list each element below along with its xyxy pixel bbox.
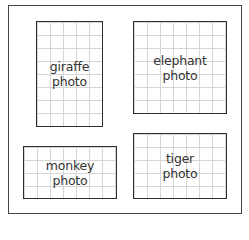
frame-label-line1: elephant	[153, 53, 207, 68]
monkey-photo-frame: monkey photo	[23, 146, 117, 199]
frame-label-line1: monkey	[46, 158, 94, 173]
frame-label-line2: photo	[52, 74, 87, 89]
tiger-photo-frame: tiger photo	[133, 133, 227, 199]
frame-label-line2: photo	[162, 166, 197, 181]
frame-label-line1: tiger	[166, 151, 194, 166]
frame-label-line2: photo	[52, 173, 87, 188]
elephant-photo-frame: elephant photo	[133, 21, 227, 114]
frame-label-line2: photo	[162, 68, 197, 83]
frame-label-line1: giraffe	[50, 59, 89, 74]
giraffe-photo-frame: giraffe photo	[36, 21, 103, 127]
